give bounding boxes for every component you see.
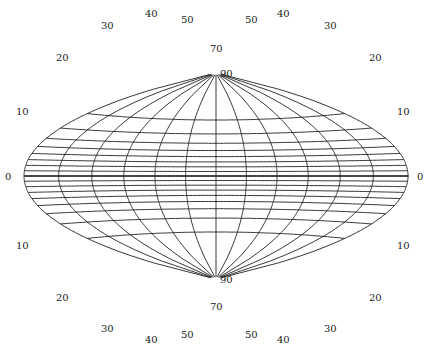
latitude-label: 50: [245, 14, 258, 25]
graticule-line: [124, 75, 213, 176]
graticule-line: [219, 75, 308, 176]
latitude-label: 20: [56, 292, 69, 303]
latitude-label: 50: [181, 14, 194, 25]
graticule-line: [186, 176, 215, 277]
latitude-label: 30: [101, 323, 114, 334]
graticule-line: [217, 176, 246, 277]
projection-graticule: 0010102020303040405050709010102020303040…: [0, 0, 432, 353]
latitude-label: 90: [220, 274, 233, 285]
latitude-label: 40: [277, 8, 290, 19]
graticule-line: [222, 176, 408, 278]
graticule-lines: [24, 74, 409, 277]
latitude-label: 10: [16, 240, 29, 251]
graticule-line: [186, 75, 215, 176]
latitude-label: 50: [245, 329, 258, 340]
graticule-line: [124, 176, 213, 277]
graticule-labels: 0010102020303040405050709010102020303040…: [5, 8, 423, 345]
graticule-line: [24, 74, 210, 176]
graticule-line: [222, 74, 408, 176]
latitude-label: 10: [16, 106, 29, 117]
graticule-line: [219, 176, 308, 277]
latitude-label: 70: [210, 301, 223, 312]
graticule-line: [217, 75, 246, 176]
latitude-label: 30: [101, 20, 114, 31]
latitude-label: 0: [5, 171, 11, 182]
graticule-line: [24, 176, 210, 278]
latitude-label: 10: [397, 106, 410, 117]
latitude-label: 20: [56, 52, 69, 63]
latitude-label: 10: [397, 240, 410, 251]
latitude-label: 40: [145, 334, 158, 345]
latitude-label: 40: [277, 334, 290, 345]
latitude-label: 50: [181, 329, 194, 340]
latitude-label: 20: [369, 52, 382, 63]
latitude-label: 0: [417, 171, 423, 182]
latitude-label: 20: [369, 292, 382, 303]
latitude-label: 70: [210, 43, 223, 54]
latitude-label: 40: [145, 8, 158, 19]
latitude-label: 30: [324, 323, 337, 334]
latitude-label: 30: [324, 20, 337, 31]
latitude-label: 90: [220, 68, 233, 79]
